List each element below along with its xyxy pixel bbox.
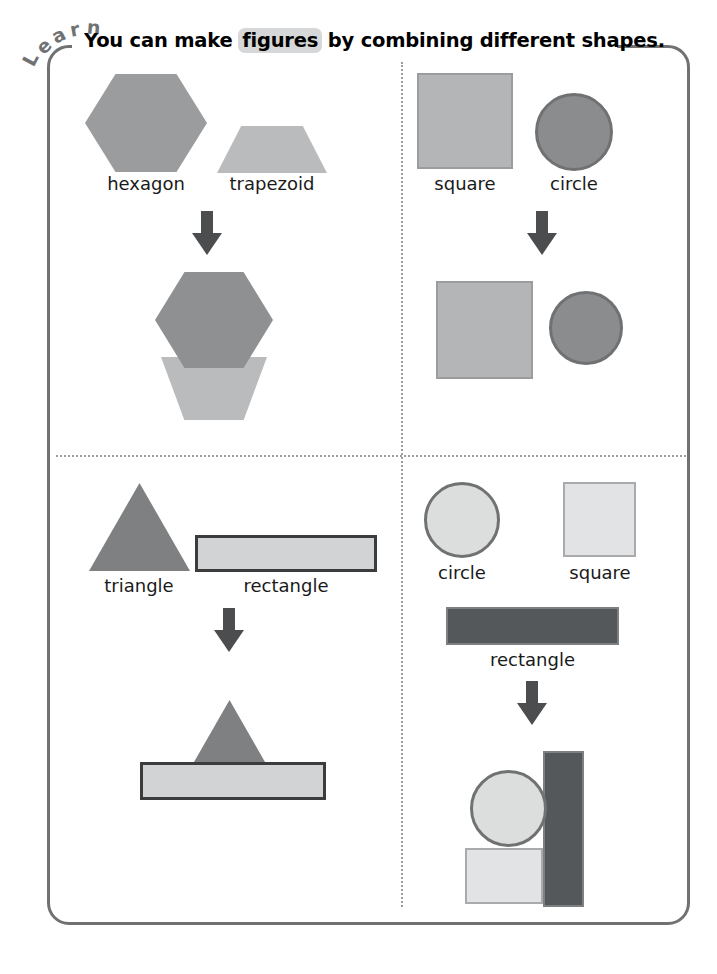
label-circle: circle — [531, 174, 617, 194]
down-arrow-icon — [192, 211, 222, 255]
shape-square — [563, 482, 636, 557]
arrow-shaft — [526, 681, 538, 705]
learn-tab-letter: r — [68, 17, 81, 40]
page-title: You can make figures by combining differ… — [84, 29, 665, 53]
down-arrow-icon — [527, 211, 557, 255]
arrow-head — [527, 233, 557, 255]
title-highlight-figures: figures — [238, 28, 322, 53]
arrow-head — [517, 703, 547, 725]
figure-part-rectangle — [140, 762, 326, 800]
horizontal-divider — [56, 455, 686, 457]
figure-part-rectangle-vertical — [543, 751, 584, 907]
label-rectangle: rectangle — [195, 576, 377, 596]
vertical-divider — [401, 62, 403, 907]
figure-part-square — [436, 281, 533, 379]
shape-rectangle — [446, 607, 619, 645]
label-square: square — [558, 563, 642, 583]
arrow-shaft — [201, 211, 213, 235]
figure-part-square-overlay — [465, 848, 543, 904]
label-hexagon: hexagon — [85, 174, 207, 194]
title-text-before: You can make — [84, 29, 239, 52]
shape-square — [417, 73, 513, 169]
figure-part-circle — [549, 291, 623, 365]
arrow-head — [192, 233, 222, 255]
shape-circle — [535, 93, 613, 171]
down-arrow-icon — [517, 681, 547, 725]
label-rectangle: rectangle — [446, 650, 619, 670]
shape-circle — [424, 482, 500, 558]
label-square: square — [412, 174, 518, 194]
label-triangle: triangle — [84, 576, 194, 596]
label-circle: circle — [420, 563, 504, 583]
figure-part-circle — [470, 770, 547, 847]
arrow-shaft — [536, 211, 548, 235]
shape-rectangle — [195, 535, 377, 572]
arrow-shaft — [223, 608, 235, 632]
learn-tab-letter: L — [17, 48, 42, 69]
down-arrow-icon — [214, 608, 244, 652]
title-text-after: by combining different shapes. — [321, 29, 665, 52]
arrow-head — [214, 630, 244, 652]
worksheet-page: L e a r n You can make figures by combin… — [0, 0, 717, 974]
label-trapezoid: trapezoid — [212, 174, 332, 194]
